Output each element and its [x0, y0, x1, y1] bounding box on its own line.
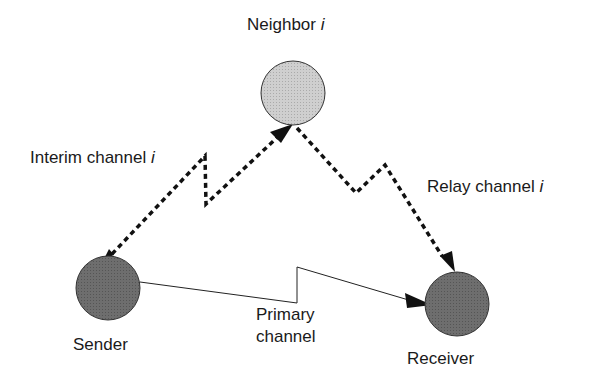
primary-channel-label-line1: Primary — [256, 305, 315, 325]
relay-channel-index: i — [539, 177, 543, 196]
diagram-canvas: Neighbor i Interim channel i Relay chann… — [0, 0, 593, 379]
relay-channel-label: Relay channel i — [427, 177, 543, 197]
primary-channel-edge — [140, 267, 432, 308]
neighbor-node — [261, 61, 325, 125]
interim-channel-text: Interim channel — [30, 148, 146, 167]
sender-node — [76, 256, 140, 320]
sender-label: Sender — [73, 335, 128, 355]
neighbor-label-text: Neighbor — [247, 15, 316, 34]
receiver-node — [425, 272, 489, 336]
interim-channel-label: Interim channel i — [30, 148, 155, 168]
interim-channel-edge — [104, 124, 293, 259]
neighbor-label: Neighbor i — [247, 15, 325, 35]
neighbor-index: i — [321, 15, 325, 34]
relay-channel-text: Relay channel — [427, 177, 535, 196]
relay-channel-edge — [297, 128, 455, 272]
interim-channel-index: i — [151, 148, 155, 167]
primary-channel-label-line2: channel — [256, 327, 316, 347]
receiver-label: Receiver — [407, 349, 474, 369]
